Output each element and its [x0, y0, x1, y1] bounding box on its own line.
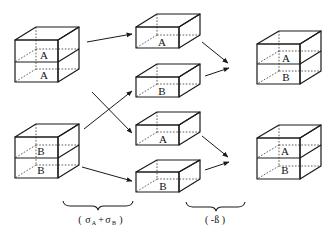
arrow-slab3-to-ab2	[202, 136, 228, 157]
slab-label: B	[159, 180, 166, 192]
layer-label: A	[40, 49, 48, 61]
arrow-slab1-to-ab1	[202, 42, 228, 63]
slab-2: B	[136, 64, 200, 97]
slab-label: B	[158, 85, 165, 97]
arrow-aa-to-slab1	[87, 34, 132, 42]
layer-label: A	[282, 52, 290, 64]
slab-4: B	[136, 160, 200, 192]
caption-step2: ( -ß )	[205, 214, 225, 226]
slab-label: A	[159, 133, 167, 145]
layer-label: B	[282, 71, 289, 83]
caption-sub: B	[112, 220, 116, 226]
caption-sub: A	[92, 220, 97, 226]
arrow-bb-to-slab2	[84, 91, 132, 129]
layer-label: B	[37, 164, 44, 176]
slab-3: A	[136, 112, 200, 145]
arrow-aa-to-slab3	[92, 92, 132, 133]
layer-label: A	[40, 69, 48, 81]
slab-label: A	[158, 36, 166, 48]
layer-label: B	[37, 145, 44, 157]
caption-sigma: σ	[85, 214, 91, 225]
arrow-bb-to-slab4	[82, 167, 132, 181]
cube-ab-1: A B	[257, 31, 321, 84]
arrow-slab2-to-ab1	[205, 68, 229, 76]
layer-label: B	[281, 164, 288, 176]
brace-step2	[186, 202, 245, 211]
cube-aa: A A	[15, 27, 79, 82]
cube-bb: B B	[15, 124, 79, 178]
cube-ab-2: A B	[257, 125, 321, 179]
layer-label: A	[281, 145, 289, 157]
caption-paren-open: (	[78, 214, 82, 226]
caption-sigma: σ	[105, 214, 111, 225]
arrow-slab4-to-ab2	[205, 162, 229, 170]
caption-paren-close: )	[119, 214, 122, 226]
reaction-diagram: A A B B A B	[0, 0, 333, 235]
caption-step1: ( σ A + σ B )	[78, 214, 122, 226]
brace-step1	[63, 201, 133, 210]
caption-plus: +	[98, 214, 104, 225]
slab-1: A	[136, 14, 200, 48]
